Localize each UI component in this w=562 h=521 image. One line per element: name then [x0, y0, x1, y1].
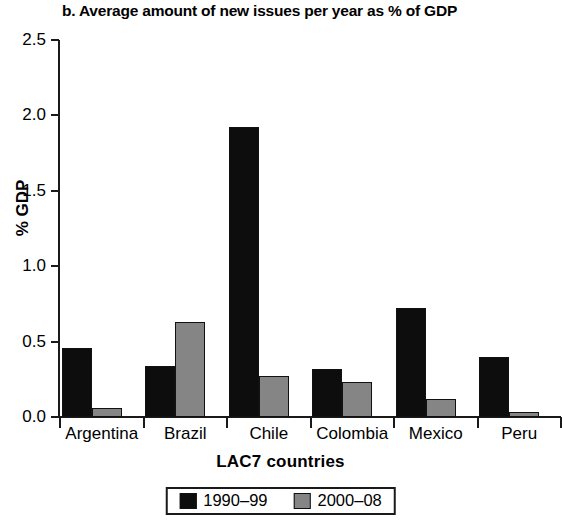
- x-category-label: Brazil: [144, 424, 228, 444]
- bar: [342, 382, 372, 417]
- legend-label: 1990–99: [203, 492, 267, 509]
- x-category-label: Argentina: [60, 424, 144, 444]
- bar: [259, 376, 289, 417]
- bar: [396, 308, 426, 417]
- y-tick-label: 0.0: [2, 408, 46, 426]
- bar: [92, 408, 122, 417]
- legend-item: 2000–08: [294, 492, 382, 509]
- bar: [175, 322, 205, 417]
- y-tick-label: 1.5: [2, 182, 46, 200]
- legend-label: 2000–08: [318, 492, 382, 509]
- bar-group: [311, 40, 395, 417]
- y-axis-label: % GDP: [13, 163, 33, 253]
- bar: [62, 348, 92, 417]
- bar: [479, 357, 509, 417]
- bar-group: [144, 40, 228, 417]
- legend-item: 1990–99: [179, 492, 267, 509]
- legend-swatch: [179, 493, 196, 509]
- bar: [509, 412, 539, 417]
- bar: [426, 399, 456, 417]
- bar: [145, 366, 175, 417]
- x-category-label: Mexico: [394, 424, 478, 444]
- x-category-label: Colombia: [311, 424, 395, 444]
- bar-group: [478, 40, 562, 417]
- x-axis-label: LAC7 countries: [0, 452, 561, 472]
- bar-group: [394, 40, 478, 417]
- x-category-label: Peru: [478, 424, 562, 444]
- chart-title: b. Average amount of new issues per year…: [62, 0, 560, 22]
- y-tick-label: 0.5: [2, 333, 46, 351]
- plot-area: [60, 40, 561, 417]
- x-category-label: Chile: [227, 424, 311, 444]
- bar: [229, 127, 259, 417]
- bar-group: [60, 40, 144, 417]
- y-tick-label: 2.5: [2, 31, 46, 49]
- y-tick-label: 1.0: [2, 257, 46, 275]
- y-tick-label: 2.0: [2, 106, 46, 124]
- bar-group: [227, 40, 311, 417]
- bar: [312, 369, 342, 417]
- legend-swatch: [294, 493, 311, 509]
- chart-legend: 1990–992000–08: [165, 487, 396, 515]
